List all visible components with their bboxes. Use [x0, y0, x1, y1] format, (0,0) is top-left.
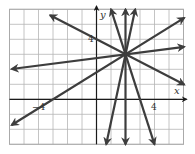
coordinate-plane: [0, 0, 195, 154]
line-slope-one-eighth: [12, 47, 185, 69]
line-slope-four-half: [106, 9, 135, 144]
x-tick-label-4: 4: [151, 103, 157, 112]
x-tick-label-neg4: −4: [32, 103, 45, 112]
x-axis-label: x: [174, 86, 180, 96]
axes: [10, 6, 187, 144]
y-tick-label-4: 4: [88, 35, 94, 44]
y-axis-label: y: [100, 10, 106, 20]
line-slope-neg-three: [111, 9, 155, 144]
lines: [12, 9, 185, 144]
